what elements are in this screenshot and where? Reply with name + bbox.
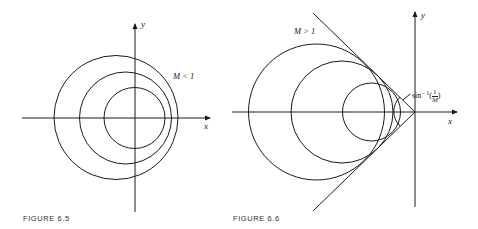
y-axis-label-6-5: y — [141, 19, 145, 29]
figure-caption-6-6: FIGURE 6.6 — [233, 214, 280, 223]
figure-6-5 — [22, 24, 210, 212]
x-axis-label-6-5: x — [204, 121, 208, 131]
figure-6-6 — [232, 12, 457, 211]
mach-angle-label: sin− 1(1M) — [412, 89, 440, 104]
region-label-6-6: M > 1 — [294, 26, 315, 36]
x-axis-label-6-6: x — [448, 116, 452, 126]
angle-pointer — [403, 94, 410, 100]
angle-label-func: sin — [412, 91, 421, 100]
y-axis-label-6-6: y — [421, 10, 425, 20]
close-paren: ) — [438, 91, 441, 100]
figures-canvas — [0, 0, 478, 229]
region-label-6-5: M < 1 — [173, 71, 194, 81]
figure-caption-6-5: FIGURE 6.5 — [23, 214, 70, 223]
